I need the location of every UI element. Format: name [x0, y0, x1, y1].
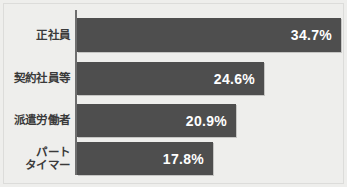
bar-value-label: 24.6%: [214, 71, 264, 87]
bar-row: 派遣労働者 20.9%: [0, 104, 347, 137]
bar-haken-roudousha: 20.9%: [77, 104, 236, 137]
bar-value-label: 34.7%: [291, 27, 341, 43]
bar-rows: 正社員 34.7% 契約社員等 24.6% 派遣労働者 20.9% パート タイ…: [0, 0, 347, 187]
bar-seishain: 34.7%: [77, 18, 341, 52]
plot-area: 正社員 34.7% 契約社員等 24.6% 派遣労働者 20.9% パート タイ…: [0, 0, 347, 187]
bar-chart-figure: 正社員 34.7% 契約社員等 24.6% 派遣労働者 20.9% パート タイ…: [0, 0, 347, 187]
category-label-seishain: 正社員: [0, 29, 70, 42]
bar-keiyaku-shain: 24.6%: [77, 62, 264, 95]
category-label-part-timer: パート タイマー: [0, 146, 70, 172]
bar-value-label: 17.8%: [163, 151, 213, 167]
bar-row: 契約社員等 24.6%: [0, 62, 347, 95]
bar-part-timer: 17.8%: [77, 142, 213, 175]
category-label-keiyaku-shain: 契約社員等: [0, 72, 70, 85]
category-label-haken-roudousha: 派遣労働者: [0, 114, 70, 127]
bar-value-label: 20.9%: [186, 113, 236, 129]
bar-row: パート タイマー 17.8%: [0, 142, 347, 175]
bar-row: 正社員 34.7%: [0, 18, 347, 52]
